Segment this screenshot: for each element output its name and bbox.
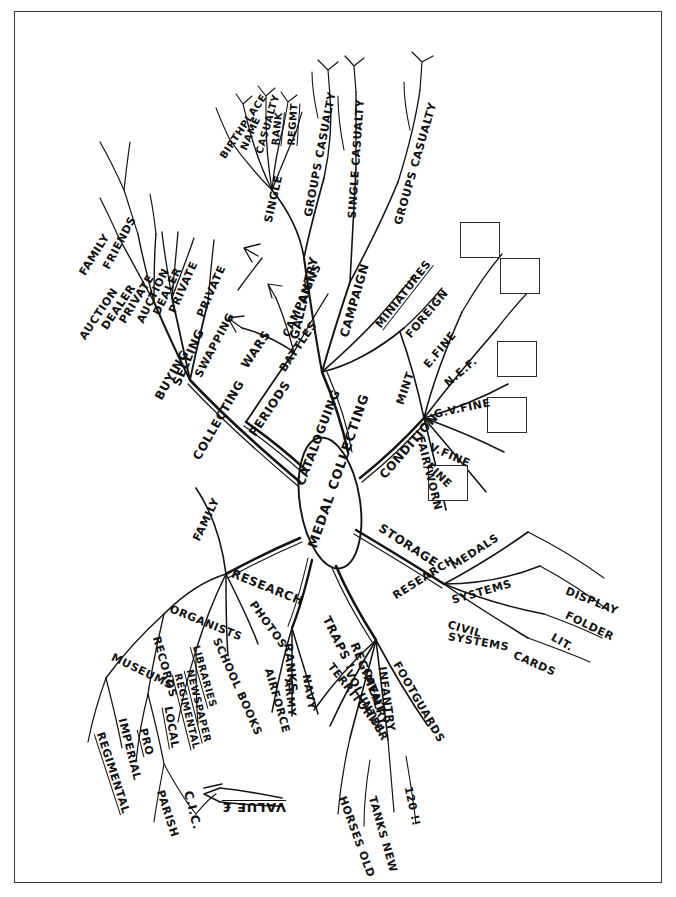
condition-box-nef: [500, 258, 540, 294]
annotation-value: VALUE £: [222, 800, 286, 815]
condition-box-gvfine: [497, 341, 537, 377]
condition-box-vfine: [487, 397, 527, 433]
mindmap-page: MEDAL COLLECTING CATALOGUING GALLANTRY S…: [0, 0, 676, 897]
condition-box-efine: [460, 222, 500, 258]
